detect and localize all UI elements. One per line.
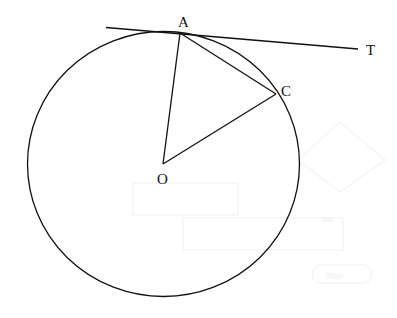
radius-OC (163, 94, 276, 164)
ghost-go-text: Go (322, 215, 333, 224)
label-T: T (366, 42, 375, 58)
geometry-diagram: Stop Go A C O T (0, 0, 397, 318)
ghost-loop-box (183, 218, 343, 250)
ghost-decision-diamond (298, 122, 385, 192)
radius-OA (163, 33, 180, 164)
ghost-stop-text: Stop (326, 271, 343, 280)
label-C: C (281, 83, 291, 99)
label-A: A (178, 14, 189, 30)
label-O: O (157, 171, 168, 187)
ghost-process-box (133, 183, 238, 215)
tangent-line-AT (106, 28, 358, 50)
chord-AC (180, 33, 276, 94)
